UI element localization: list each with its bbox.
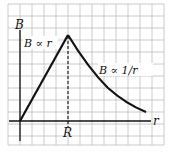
inner-annotation: B ∝ r [23, 37, 53, 50]
x-tick-R: R [62, 126, 72, 140]
x-axis-label: r [153, 114, 160, 128]
magnetic-field-vs-radius-chart: B r R B ∝ r B ∝ 1/r [0, 0, 174, 154]
outer-annotation: B ∝ 1/r [98, 64, 138, 77]
y-axis-label: B [14, 18, 24, 32]
